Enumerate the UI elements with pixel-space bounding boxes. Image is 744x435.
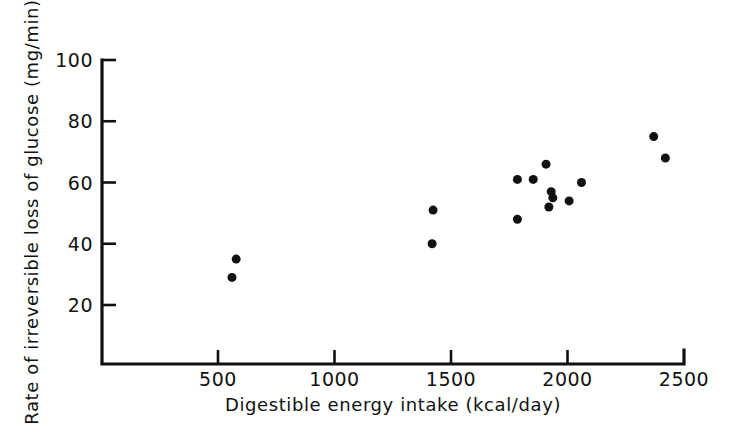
- x-tick-label: 2000: [542, 368, 592, 390]
- data-point: [649, 132, 658, 141]
- x-tick-label: 1500: [426, 368, 476, 390]
- y-axis-title: Rate of irreversible loss of glucose (mg…: [21, 0, 42, 425]
- data-point: [513, 175, 522, 184]
- y-tick-label: 40: [68, 233, 93, 255]
- data-point: [544, 203, 553, 212]
- data-point: [565, 196, 574, 205]
- data-points-layer: [227, 132, 669, 282]
- x-axis-title: Digestible energy intake (kcal/day): [225, 394, 561, 415]
- data-point: [661, 154, 670, 163]
- x-tick-label: 500: [199, 368, 237, 390]
- x-tick-label: 1000: [309, 368, 359, 390]
- x-tick-label: 2500: [659, 368, 709, 390]
- x-axis-ticks: 5001000150020002500: [199, 350, 709, 390]
- data-point: [227, 273, 236, 282]
- y-tick-label: 20: [68, 294, 93, 316]
- data-point: [548, 193, 557, 202]
- data-point: [232, 255, 241, 264]
- y-tick-label: 60: [68, 172, 93, 194]
- scatter-plot-figure: 20406080100 5001000150020002500 Digestib…: [0, 0, 744, 435]
- axis-lines: [102, 60, 684, 364]
- data-point: [529, 175, 538, 184]
- data-point: [428, 239, 437, 248]
- y-tick-label: 100: [55, 49, 93, 71]
- data-point: [513, 215, 522, 224]
- data-point: [577, 178, 586, 187]
- plot-canvas: 20406080100 5001000150020002500 Digestib…: [0, 0, 744, 435]
- y-axis-ticks: 20406080100: [55, 49, 116, 316]
- data-point: [542, 160, 551, 169]
- axes-group: [102, 60, 684, 364]
- data-point: [429, 206, 438, 215]
- y-tick-label: 80: [68, 110, 93, 132]
